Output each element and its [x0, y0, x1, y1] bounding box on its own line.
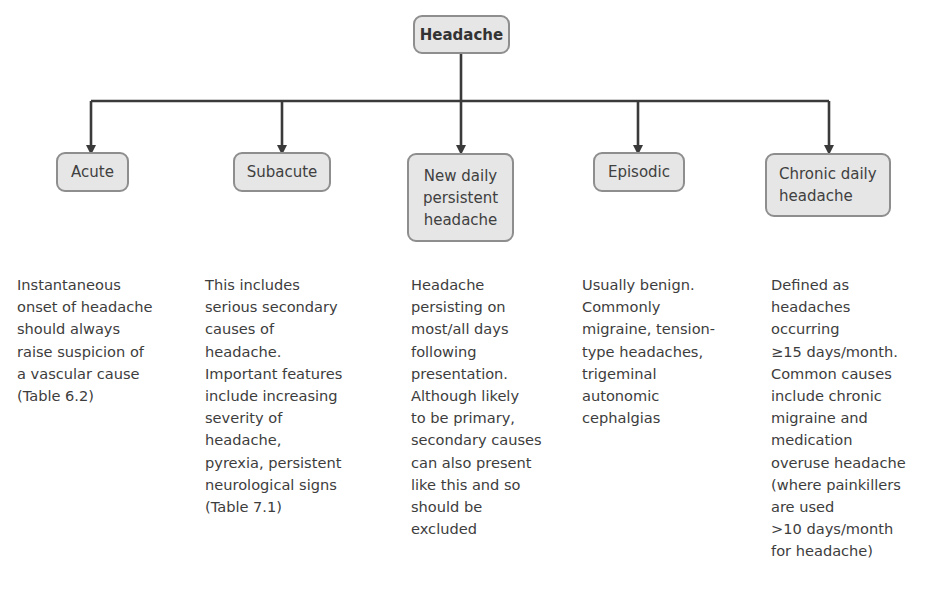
description-subacute: This includes serious secondary causes o…: [205, 274, 342, 518]
node-new-daily-persistent: New daily persistent headache: [407, 153, 514, 242]
node-chronic-daily: Chronic daily headache: [765, 153, 891, 217]
node-new-daily-persistent-label: New daily persistent headache: [423, 165, 498, 231]
node-subacute-label: Subacute: [247, 161, 318, 183]
node-headache: Headache: [413, 15, 510, 54]
description-new-daily-persistent: Headache persisting on most/all days fol…: [411, 274, 542, 540]
node-subacute: Subacute: [233, 152, 331, 192]
description-acute: Instantaneous onset of headache should a…: [17, 274, 152, 407]
node-acute: Acute: [56, 152, 129, 192]
node-chronic-daily-label: Chronic daily headache: [779, 163, 877, 207]
node-episodic-label: Episodic: [608, 161, 670, 183]
node-episodic: Episodic: [593, 152, 685, 192]
description-episodic: Usually benign. Commonly migraine, tensi…: [582, 274, 715, 429]
node-acute-label: Acute: [71, 161, 114, 183]
node-headache-label: Headache: [420, 24, 503, 46]
description-chronic-daily: Defined as headaches occurring ≥15 days/…: [771, 274, 906, 563]
